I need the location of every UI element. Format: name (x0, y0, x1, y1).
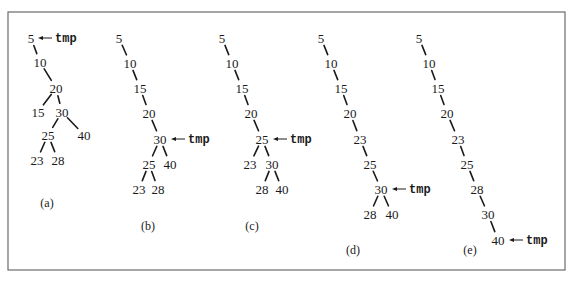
tree-node: 10 (124, 56, 137, 71)
tree-edge (68, 118, 78, 129)
tree-edge (275, 171, 279, 180)
tree-edge (163, 146, 167, 155)
tree-edge (384, 196, 388, 206)
tree-node: 28 (364, 207, 377, 222)
tree-edge (470, 171, 474, 180)
tree-node: 23 (244, 157, 257, 172)
tree-edge (245, 96, 248, 105)
tmp-pointer: tmp (509, 234, 548, 248)
tmp-pointer: tmp (171, 133, 210, 147)
subfigure-label: (e) (463, 243, 476, 257)
subfigure-label: (d) (346, 243, 360, 257)
tree-node: 23 (31, 153, 44, 168)
tree-edge (41, 142, 45, 152)
tmp-pointer: tmp (38, 32, 77, 46)
tmp-label: tmp (526, 234, 548, 248)
tree-node: 28 (256, 182, 269, 197)
tree-edge (254, 120, 258, 130)
tree-edge (450, 120, 454, 130)
tree-edge (422, 45, 426, 54)
tree-edge (334, 70, 338, 79)
tree-edge (51, 142, 55, 151)
tree-node: 10 (423, 56, 436, 71)
tree-node: 10 (325, 56, 338, 71)
tree-edge (373, 171, 377, 181)
tree-node: 25 (461, 157, 474, 172)
tree-edge (143, 96, 146, 105)
tree-edge (142, 171, 146, 180)
tree-node: 10 (226, 56, 239, 71)
tree-node: 40 (78, 128, 91, 143)
tree-edge (44, 69, 51, 81)
arrow-left-icon (392, 187, 397, 191)
subfigure-label: (b) (141, 219, 155, 233)
tree-node: 5 (116, 31, 123, 46)
tree-node: 23 (133, 182, 146, 197)
tree-node: 15 (236, 81, 249, 96)
tree-node: 10 (34, 55, 47, 70)
tree-node: 25 (143, 157, 156, 172)
tree-rotation-figure: 51020153025402328tmp(a)51015203025402328… (0, 0, 573, 282)
tree-edge (225, 45, 229, 54)
tree-edge (363, 146, 367, 155)
tree-node: 40 (492, 233, 505, 248)
tree-b: 51015203025402328tmp(b) (116, 31, 210, 234)
tree-node: 30 (154, 132, 167, 147)
tree-node: 30 (482, 207, 495, 222)
arrow-left-icon (509, 238, 514, 242)
tree-edge (432, 71, 435, 80)
tree-node: 40 (276, 182, 289, 197)
tree-node: 15 (134, 81, 147, 96)
tree-edge (265, 171, 269, 180)
tree-node: 28 (52, 153, 65, 168)
tree-edge (235, 70, 239, 79)
tree-node: 23 (354, 132, 367, 147)
tree-d: 51015202325302840tmp(d) (318, 31, 431, 258)
subfigure-label: (a) (40, 196, 53, 210)
tree-edge (265, 146, 269, 155)
tree-edge (122, 45, 126, 55)
trees-layer: 51020153025402328tmp(a)51015203025402328… (28, 31, 548, 258)
tree-edge (254, 146, 259, 156)
tree-edge (133, 70, 137, 79)
tree-c: 51015202523302840tmp(c) (219, 31, 312, 234)
tmp-label: tmp (55, 32, 77, 46)
figure-frame (8, 12, 565, 270)
tree-node: 15 (432, 81, 445, 96)
tmp-label: tmp (188, 133, 210, 147)
tree-edge (53, 119, 58, 128)
tree-node: 5 (219, 31, 226, 46)
subfigure-label: (c) (245, 219, 258, 233)
arrow-left-icon (171, 137, 176, 141)
tree-node: 25 (364, 157, 377, 172)
tree-node: 20 (50, 81, 63, 96)
arrow-left-icon (38, 36, 43, 40)
arrow-left-icon (273, 137, 278, 141)
tree-edge (152, 120, 156, 130)
tmp-label: tmp (409, 183, 431, 197)
tree-edge (491, 222, 495, 232)
tree-node: 23 (452, 132, 465, 147)
tree-node: 30 (375, 182, 388, 197)
tree-node: 20 (245, 106, 258, 121)
tree-node: 5 (318, 31, 325, 46)
tree-edge (153, 146, 157, 156)
tree-node: 25 (42, 128, 55, 143)
tree-edge (34, 46, 37, 54)
tree-edge (480, 196, 484, 206)
tree-node: 28 (471, 182, 484, 197)
tree-node: 15 (335, 81, 348, 96)
tmp-pointer: tmp (392, 183, 431, 197)
tree-node: 28 (152, 182, 165, 197)
tree-node: 30 (266, 157, 279, 172)
tree-edge (344, 96, 347, 105)
tree-node: 25 (256, 132, 269, 147)
tree-edge (152, 172, 155, 181)
tree-edge (374, 196, 378, 206)
tree-node: 5 (28, 31, 35, 46)
tree-node: 15 (32, 105, 45, 120)
tree-edge (353, 121, 357, 131)
tree-node: 40 (386, 207, 399, 222)
tree-a: 51020153025402328tmp(a) (28, 31, 91, 211)
tree-node: 20 (344, 106, 357, 121)
